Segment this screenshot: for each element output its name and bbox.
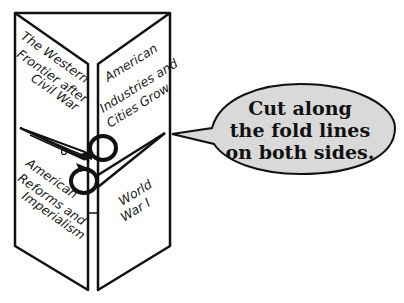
foldable-diagram: The Western Frontier after Civil War Ame…	[0, 0, 404, 303]
callout-line-3: on both sides.	[226, 141, 375, 163]
callout-line-1: Cut along	[248, 97, 352, 119]
callout-bubble: Cut along the fold lines on both sides.	[172, 84, 395, 174]
callout-line-2: the fold lines	[230, 119, 370, 141]
